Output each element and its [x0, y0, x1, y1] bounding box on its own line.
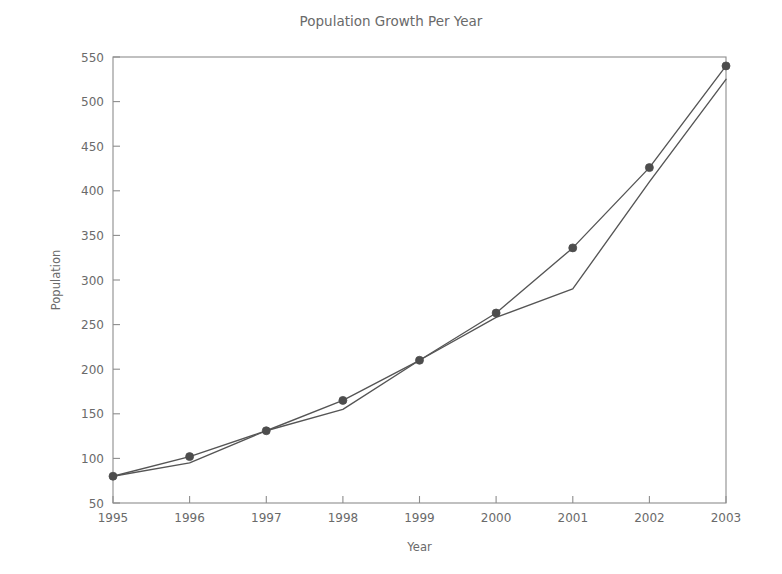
x-tick-label: 1997 — [251, 511, 282, 525]
y-axis-title: Population — [49, 250, 63, 310]
data-point-marker — [722, 62, 730, 70]
x-axis-title: Year — [406, 540, 432, 554]
data-point-marker — [645, 164, 653, 172]
chart-figure: Population Growth Per Year — [0, 0, 782, 574]
data-point-marker — [339, 396, 347, 404]
y-tick-label: 150 — [81, 407, 104, 421]
series-line-a — [113, 66, 726, 476]
x-tick-label: 1996 — [174, 511, 205, 525]
data-point-marker — [416, 356, 424, 364]
series-a-markers — [109, 62, 730, 480]
chart-title: Population Growth Per Year — [300, 13, 483, 29]
y-tick-label: 450 — [81, 140, 104, 154]
data-point-marker — [186, 453, 194, 461]
y-tick-label: 50 — [89, 497, 104, 511]
x-tick-label: 2002 — [634, 511, 665, 525]
data-point-marker — [492, 309, 500, 317]
y-tick-label: 300 — [81, 274, 104, 288]
y-tick-labels: 50 100 150 200 250 300 350 400 450 500 5… — [81, 51, 104, 511]
y-tick-label: 250 — [81, 318, 104, 332]
population-growth-line-chart: Population Growth Per Year — [0, 0, 782, 574]
x-tick-label: 2000 — [481, 511, 512, 525]
y-tick-label: 400 — [81, 184, 104, 198]
x-tick-labels: 1995 1996 1997 1998 1999 2000 2001 2002 … — [98, 511, 742, 525]
x-tick-label: 1999 — [404, 511, 435, 525]
y-tick-label: 550 — [81, 51, 104, 65]
x-tick-marks — [113, 496, 726, 503]
data-point-marker — [262, 427, 270, 435]
x-tick-label: 2001 — [558, 511, 589, 525]
x-tick-label: 2003 — [711, 511, 742, 525]
y-tick-label: 500 — [81, 95, 104, 109]
series-line-b — [113, 79, 726, 476]
plot-frame — [113, 57, 726, 503]
y-tick-label: 100 — [81, 452, 104, 466]
y-tick-label: 350 — [81, 229, 104, 243]
y-tick-marks — [113, 57, 120, 503]
y-tick-label: 200 — [81, 363, 104, 377]
x-tick-label: 1998 — [328, 511, 359, 525]
data-point-marker — [109, 472, 117, 480]
x-tick-label: 1995 — [98, 511, 129, 525]
data-point-marker — [569, 244, 577, 252]
